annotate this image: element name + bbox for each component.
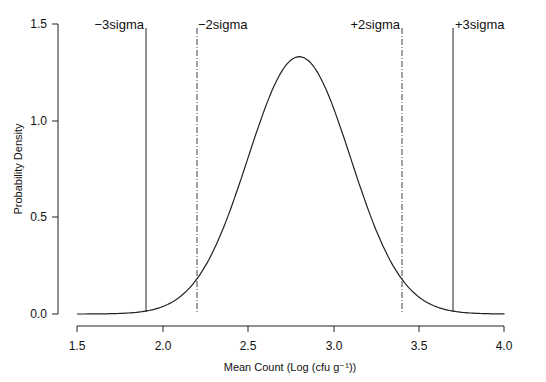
y-tick-label: 0.5	[30, 210, 47, 224]
minus-3sigma-label: −3sigma	[95, 17, 145, 32]
plus-2sigma-label: +2sigma	[351, 17, 401, 32]
x-tick-label: 4.0	[496, 339, 513, 353]
x-axis	[77, 326, 504, 332]
y-tick-label: 1.0	[30, 114, 47, 128]
normal-distribution-chart: 0.0 0.5 1.0 1.5 Probability Density 1.5 …	[0, 0, 546, 382]
y-tick-label: 0.0	[30, 307, 47, 321]
y-tick-label: 1.5	[30, 17, 47, 31]
y-axis-title: Probability Density	[12, 123, 24, 215]
x-tick-label: 2.5	[240, 339, 257, 353]
y-axis	[52, 24, 58, 314]
sigma-lines	[146, 28, 453, 314]
minus-2sigma-label: −2sigma	[198, 17, 248, 32]
x-tick-label: 1.5	[69, 339, 86, 353]
sigma-labels: −3sigma −2sigma +2sigma +3sigma	[95, 17, 506, 32]
y-tick-labels: 0.0 0.5 1.0 1.5	[30, 17, 47, 321]
x-tick-label: 3.5	[411, 339, 428, 353]
x-axis-title: Mean Count (Log (cfu g⁻¹))	[224, 361, 357, 373]
x-tick-labels: 1.5 2.0 2.5 3.0 3.5 4.0	[69, 339, 513, 353]
x-tick-label: 3.0	[326, 339, 343, 353]
x-tick-label: 2.0	[155, 339, 172, 353]
density-curve	[77, 57, 505, 314]
plus-3sigma-label: +3sigma	[455, 17, 505, 32]
